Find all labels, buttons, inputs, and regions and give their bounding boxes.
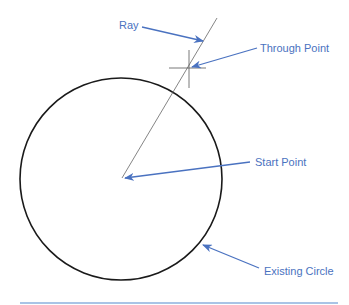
existing-circle-label: Existing Circle — [264, 265, 334, 277]
through-point-label: Through Point — [260, 42, 329, 54]
ray-line — [122, 18, 217, 178]
start-point-label: Start Point — [255, 156, 306, 168]
through-point-arrow — [192, 48, 257, 67]
ray-label: Ray — [119, 19, 139, 31]
through-point-crosshair-icon — [169, 50, 206, 88]
existing-circle-shape — [20, 78, 222, 280]
ray-arrow — [142, 27, 203, 41]
existing-circle-arrow — [203, 245, 259, 268]
bottom-divider — [20, 302, 338, 304]
start-point-arrow — [125, 162, 250, 178]
